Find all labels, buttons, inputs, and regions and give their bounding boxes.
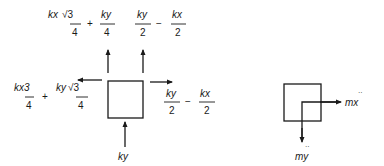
double-dot-accent: ··: [305, 143, 310, 150]
numerator: kx3: [14, 82, 30, 93]
numerator: ky: [56, 82, 67, 93]
denominator: 2: [204, 105, 210, 116]
top-right-force-label: ky 2 − kx 2: [135, 9, 186, 38]
radical: √3: [62, 9, 73, 20]
denominator: 4: [72, 27, 78, 38]
denominator: 2: [169, 105, 175, 116]
numerator: ky: [137, 9, 148, 20]
radical: √3: [68, 82, 79, 93]
bottom-force-label: ky: [118, 151, 129, 162]
block-square: [108, 81, 143, 118]
vertical-inertia-label: my ··: [295, 143, 310, 162]
denominator: 2: [140, 27, 146, 38]
label: my: [295, 151, 309, 162]
numerator: ky: [101, 9, 112, 20]
denominator: 4: [104, 27, 110, 38]
double-dot-accent: ··: [358, 89, 363, 96]
operator: −: [156, 18, 162, 29]
top-left-force-label: kx √3 4 + ky 4: [48, 9, 115, 38]
operator: −: [185, 96, 191, 107]
operator: +: [87, 18, 93, 29]
left-block: kx √3 4 + ky 4 ky 2 − kx 2 kx3 4 + ky √3: [14, 9, 215, 162]
free-body-diagrams: kx √3 4 + ky 4 ky 2 − kx 2 kx3 4 + ky √3: [0, 0, 384, 166]
right-force-label: ky 2 − kx 2: [164, 88, 215, 116]
denominator: 4: [26, 100, 32, 111]
right-block: mx ·· my ··: [284, 84, 363, 162]
numerator: kx: [172, 9, 183, 20]
numerator: ky: [166, 88, 177, 99]
numerator: kx: [200, 88, 211, 99]
numerator: kx: [48, 9, 59, 20]
denominator: 4: [78, 100, 84, 111]
horizontal-inertia-label: mx ··: [345, 89, 363, 108]
denominator: 2: [175, 27, 181, 38]
left-force-label: kx3 4 + ky √3 4: [14, 82, 88, 111]
label: mx: [345, 97, 359, 108]
operator: +: [42, 91, 48, 102]
